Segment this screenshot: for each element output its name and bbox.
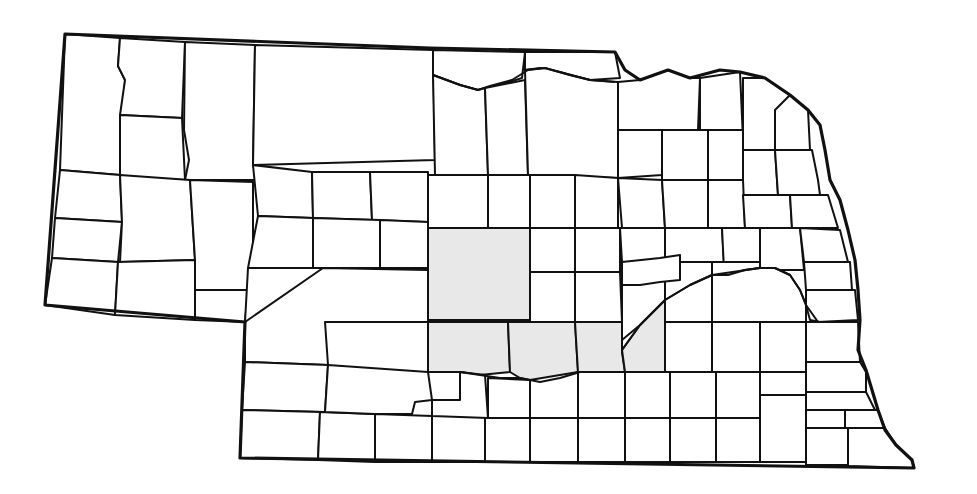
county-grant: [312, 172, 372, 220]
county-chase: [240, 410, 320, 460]
county-hooker: [370, 172, 428, 222]
county-boone: [618, 178, 665, 228]
county-dawes: [118, 38, 185, 118]
county-custer: [428, 228, 530, 320]
county-furnas: [485, 418, 530, 462]
county-valley: [530, 228, 575, 272]
county-lancaster: [806, 322, 860, 362]
county-dawson: [428, 322, 510, 375]
county-rock: [485, 80, 528, 175]
county-howard: [575, 272, 622, 322]
county-gage: [760, 372, 806, 395]
county-saline: [716, 372, 760, 418]
county-otoe: [806, 392, 875, 410]
county-clay: [625, 372, 670, 418]
county-hamilton: [665, 322, 712, 372]
county-greeley: [575, 228, 620, 272]
county-adams: [578, 372, 625, 418]
county-webster: [625, 418, 670, 462]
county-thayer: [716, 418, 760, 462]
county-garden: [190, 180, 253, 290]
county-box-butte: [120, 115, 185, 180]
county-wheeler: [618, 130, 662, 178]
county-loup: [530, 175, 575, 228]
county-fillmore: [670, 372, 716, 418]
county-sioux: [60, 34, 125, 175]
county-hayes: [318, 412, 375, 462]
county-nance: [620, 228, 665, 262]
county-stanton: [708, 180, 745, 228]
county-sheridan: [184, 42, 258, 180]
county-holt: [525, 68, 618, 178]
county-madison: [662, 180, 708, 228]
county-harlan: [530, 418, 578, 462]
county-scotts-bluff: [55, 170, 122, 222]
county-thurston: [775, 150, 820, 195]
county-hitchcock: [375, 414, 432, 462]
county-thomas: [428, 175, 488, 228]
county-york: [712, 322, 760, 372]
county-seward: [760, 322, 806, 372]
county-jefferson: [760, 395, 806, 462]
county-mcpherson: [313, 218, 380, 268]
county-johnson: [806, 410, 845, 428]
county-garfield: [575, 175, 618, 228]
county-franklin: [578, 418, 625, 462]
county-dodge: [760, 228, 804, 270]
county-pierce: [708, 130, 743, 180]
county-phelps: [488, 378, 530, 418]
county-sherman: [530, 272, 575, 322]
county-cherry: [253, 45, 435, 165]
county-cass: [806, 362, 866, 392]
county-sarpy: [806, 290, 858, 322]
county-nuckolls: [670, 418, 716, 462]
county-washington: [800, 228, 848, 262]
county-wayne: [743, 150, 778, 195]
county-arthur: [248, 216, 313, 268]
county-sheridan-s: [253, 165, 313, 218]
county-morrill: [120, 175, 195, 262]
county-cuming: [743, 195, 792, 228]
county-perkins: [242, 362, 328, 412]
county-banner: [52, 218, 122, 262]
county-logan: [380, 220, 428, 268]
county-pawnee: [806, 428, 848, 465]
nebraska-county-map: [0, 0, 977, 494]
county-blaine: [488, 175, 530, 228]
county-antelope: [662, 130, 708, 180]
county-hall-w: [575, 322, 625, 372]
county-douglas: [804, 262, 852, 290]
